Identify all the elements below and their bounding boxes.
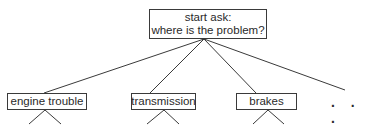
root-node-line2: where is the problem? <box>151 24 264 37</box>
subtree-stub-engine <box>29 110 61 124</box>
edge-root-more <box>204 39 345 90</box>
node-engine-trouble: engine trouble <box>7 93 87 110</box>
node-label: engine trouble <box>11 95 84 108</box>
decision-tree-diagram: start ask: where is the problem? engine … <box>0 0 375 136</box>
edge-root-engine <box>44 39 204 93</box>
subtree-stub-transmission <box>147 110 179 124</box>
root-node-line1: start ask: <box>185 11 232 24</box>
node-label: brakes <box>249 95 284 108</box>
edge-root-transmission <box>150 39 204 93</box>
more-nodes-ellipsis: . . . <box>331 94 375 126</box>
node-label: transmission <box>131 95 196 108</box>
edge-root-brakes <box>204 39 256 93</box>
node-transmission: transmission <box>131 93 196 110</box>
root-node: start ask: where is the problem? <box>149 9 267 39</box>
subtree-stub-brakes <box>253 110 284 124</box>
node-brakes: brakes <box>236 93 297 110</box>
